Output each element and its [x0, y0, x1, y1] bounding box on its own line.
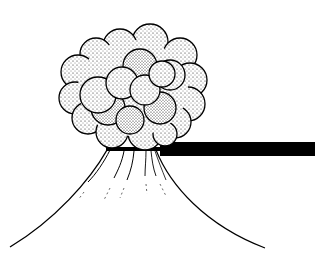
streak-dash-4 — [146, 184, 147, 194]
streak-5 — [151, 151, 156, 176]
cloud-puff — [116, 106, 144, 134]
streak-dash-2 — [104, 188, 110, 200]
streak-dash-3 — [120, 188, 124, 198]
streak-1 — [88, 150, 110, 182]
streak-right-outer — [156, 150, 265, 248]
explosion-illustration — [0, 0, 327, 258]
streak-dash-1 — [78, 192, 84, 200]
base-streaks — [10, 150, 265, 248]
cloud-puff — [149, 61, 175, 87]
streak-3 — [127, 151, 134, 180]
streak-4 — [145, 151, 146, 176]
billowing-cloud — [59, 24, 207, 150]
streak-dash-5 — [160, 184, 166, 196]
horizontal-bar — [160, 142, 315, 156]
streak-2 — [114, 151, 124, 178]
streak-left-outer — [10, 150, 107, 247]
